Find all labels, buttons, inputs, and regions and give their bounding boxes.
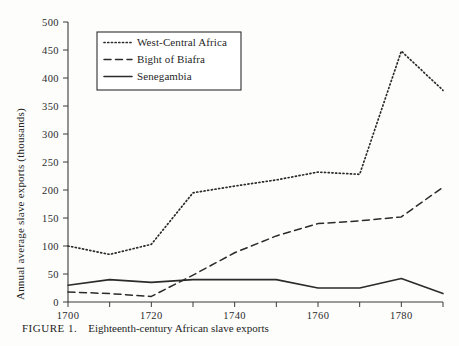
y-axis-tick-labels: 050100150200250300350400450500 [42,17,59,308]
x-tick-label: 1760 [307,310,330,321]
y-tick-label: 350 [42,101,59,112]
figure-caption: FIGURE 1.Eighteenth-century African slav… [22,322,442,334]
y-tick-label: 500 [42,17,59,28]
y-tick-label: 0 [53,297,59,308]
y-tick-label: 150 [42,213,59,224]
y-tick-label: 50 [48,269,59,280]
legend-label: Bight of Biafra [137,53,205,65]
y-tick-label: 300 [42,129,59,140]
x-tick-label: 1740 [223,310,246,321]
x-tick-label: 1720 [140,310,163,321]
legend-label: West-Central Africa [137,36,227,48]
y-tick-label: 100 [42,241,59,252]
y-tick-label: 200 [42,185,59,196]
chart-legend: West-Central AfricaBight of BiafraSenega… [97,32,241,90]
y-axis-ticks [63,22,68,302]
x-tick-label: 1700 [57,310,80,321]
line-chart: 050100150200250300350400450500 170017201… [0,0,459,346]
x-axis-ticks [68,302,443,307]
y-tick-label: 250 [42,157,59,168]
x-tick-label: 1780 [390,310,413,321]
figure-number: FIGURE 1. [22,322,77,334]
legend-label: Senegambia [137,70,192,82]
y-axis-title: Annual average slave exports (thousands) [14,108,27,300]
x-axis-tick-labels: 17001720174017601780 [57,310,413,321]
y-tick-label: 400 [42,73,59,84]
y-tick-label: 450 [42,45,59,56]
figure-caption-text: Eighteenth-century African slave exports [88,322,269,334]
series-line-senegambia [68,278,443,293]
figure-page: 050100150200250300350400450500 170017201… [0,0,459,346]
